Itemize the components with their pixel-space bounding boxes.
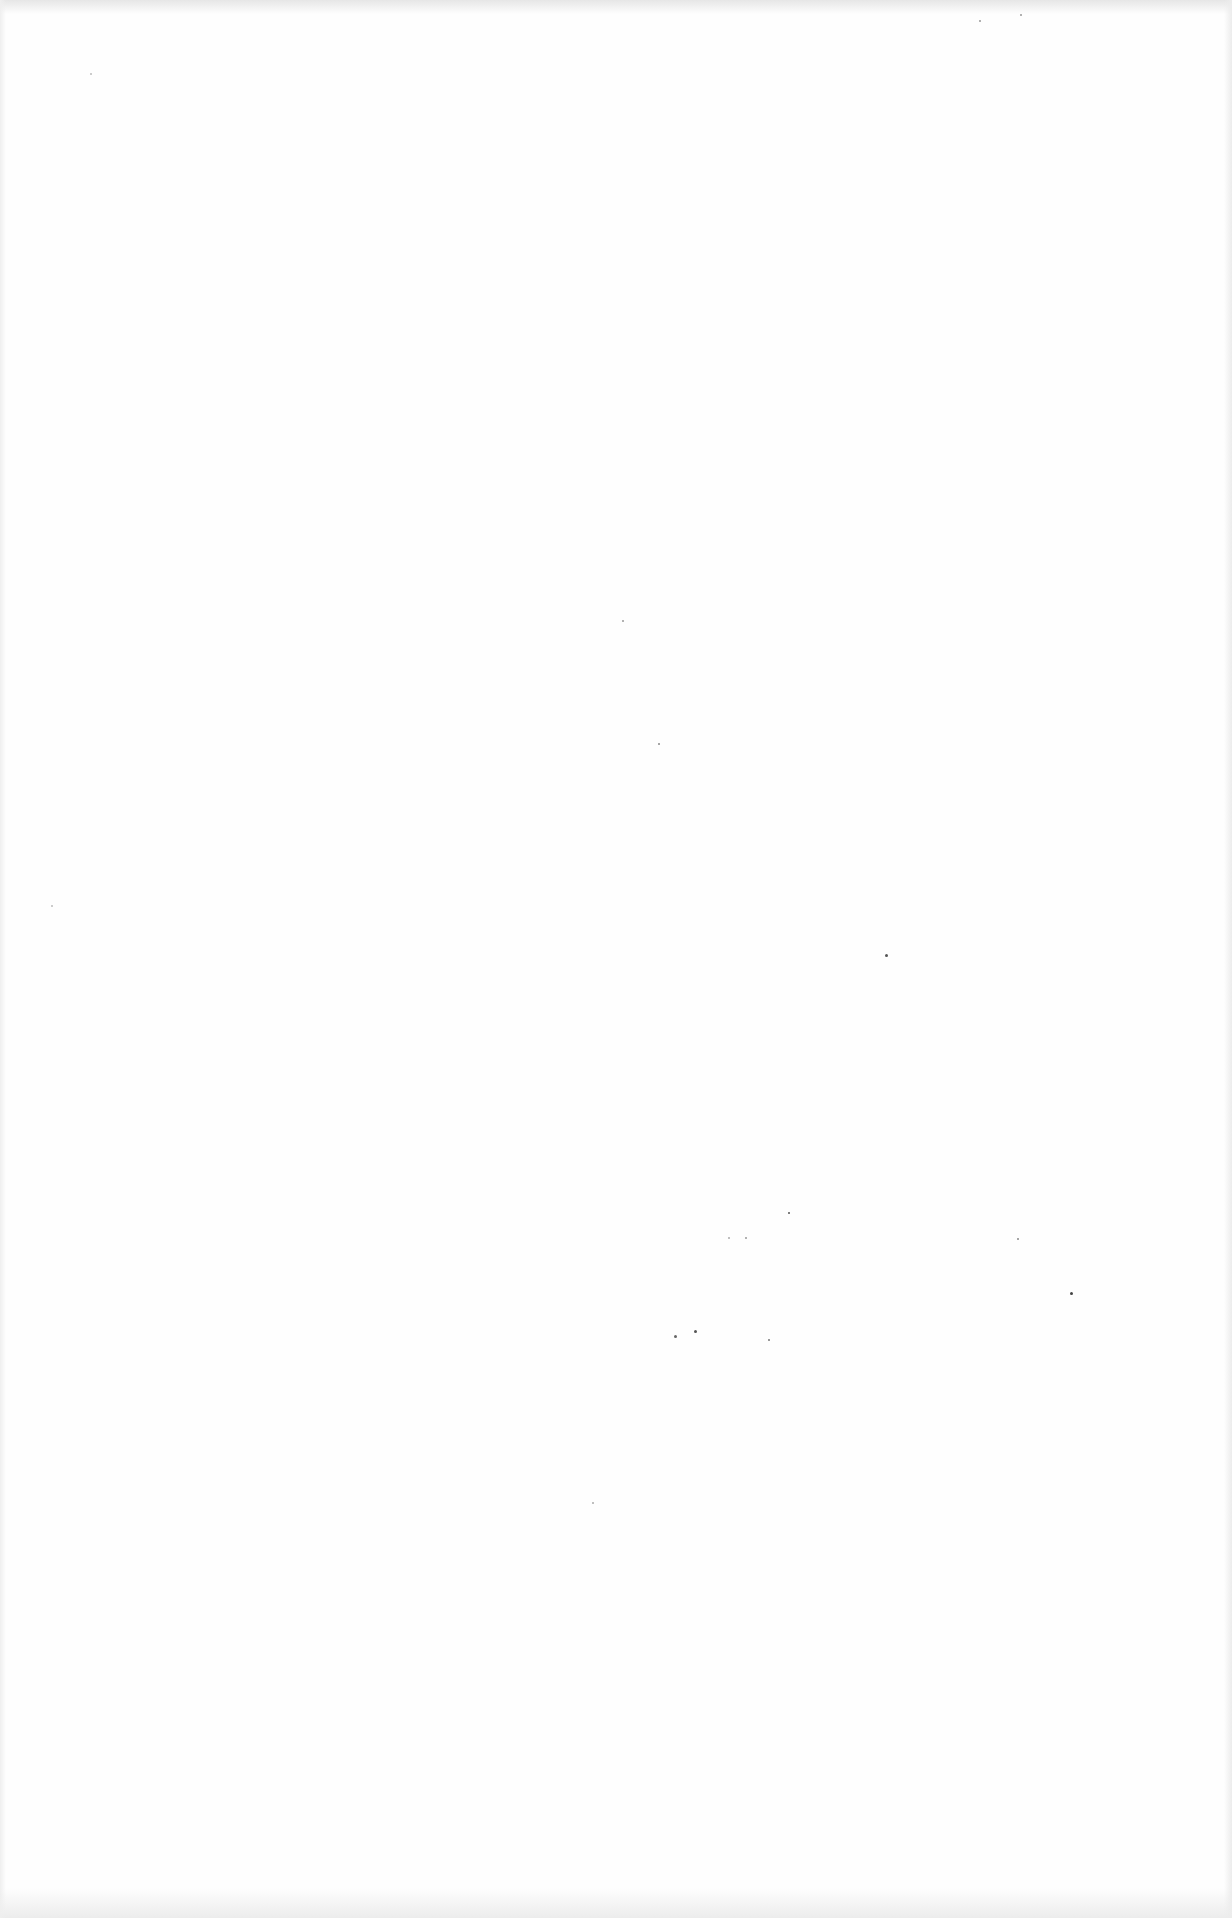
scan-edge-top <box>0 0 1232 14</box>
scan-speck <box>694 1330 697 1333</box>
scan-speck <box>979 20 981 22</box>
scan-speck <box>674 1335 677 1338</box>
blank-document-page <box>0 0 1232 1918</box>
scan-speck <box>768 1339 770 1341</box>
scan-edge-left <box>0 0 6 1918</box>
scan-edge-bottom <box>0 1888 1232 1918</box>
scan-speck <box>1017 1238 1019 1240</box>
scan-speck <box>728 1237 730 1239</box>
scan-edge-right <box>1224 0 1232 1918</box>
scan-speck <box>51 905 53 907</box>
scan-speck <box>592 1502 594 1504</box>
scan-speck <box>90 73 92 75</box>
scan-speck <box>788 1212 790 1214</box>
scan-speck <box>885 954 888 957</box>
scan-speck <box>1020 14 1022 16</box>
scan-speck <box>658 743 660 745</box>
scan-speck <box>745 1237 747 1239</box>
scan-speck <box>1070 1292 1073 1295</box>
scan-speck <box>622 620 624 622</box>
